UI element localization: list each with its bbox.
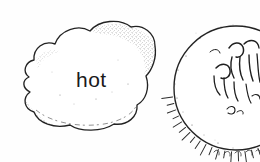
cloud-label: hot: [76, 69, 107, 90]
drawing-svg: [0, 0, 260, 162]
sun-shape: [162, 25, 260, 162]
illustration-canvas: hot: [0, 0, 260, 162]
